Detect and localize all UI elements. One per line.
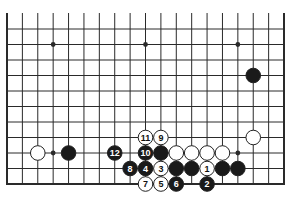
black-stone: [61, 146, 76, 161]
stone-icon: [30, 146, 45, 161]
black-stone: 10: [138, 146, 153, 161]
stone-icon: [184, 161, 199, 176]
star-point-icon: [235, 151, 240, 156]
white-stone: 5: [154, 177, 169, 192]
black-stone: [246, 68, 261, 83]
star-point-icon: [51, 42, 56, 47]
move-number: 1: [205, 164, 210, 174]
black-stone: 12: [107, 146, 122, 161]
star-point-icon: [143, 42, 148, 47]
black-stone: [215, 161, 230, 176]
stone-icon: [246, 68, 261, 83]
stone-icon: [154, 146, 169, 161]
stone-icon: [246, 130, 261, 145]
star-point-icon: [51, 151, 56, 156]
stone-icon: [215, 146, 230, 161]
white-stone: 3: [154, 161, 169, 176]
move-number: 3: [158, 164, 163, 174]
white-stone: [215, 146, 230, 161]
stone-icon: [200, 146, 215, 161]
move-number: 4: [143, 164, 148, 174]
move-number: 6: [174, 179, 179, 189]
white-stone: 9: [154, 130, 169, 145]
black-stone: [154, 146, 169, 161]
stone-icon: [169, 146, 184, 161]
move-number: 7: [143, 179, 148, 189]
move-number: 5: [158, 179, 163, 189]
black-stone: 2: [200, 177, 215, 192]
go-board: 121191084317562: [0, 0, 292, 198]
white-stone: 1: [200, 161, 215, 176]
white-stone: [246, 130, 261, 145]
stone-icon: [61, 146, 76, 161]
black-stone: [169, 161, 184, 176]
white-stone: [169, 146, 184, 161]
black-stone: 6: [169, 177, 184, 192]
white-stone: 11: [138, 130, 153, 145]
white-stone: 7: [138, 177, 153, 192]
star-point-icon: [235, 42, 240, 47]
move-number: 2: [205, 179, 210, 189]
stone-icon: [231, 161, 246, 176]
stone-icon: [215, 161, 230, 176]
black-stone: [184, 161, 199, 176]
black-stone: [231, 161, 246, 176]
move-number: 9: [158, 133, 163, 143]
move-number: 8: [128, 164, 133, 174]
white-stone: [184, 146, 199, 161]
move-number: 11: [141, 133, 151, 143]
move-number: 12: [110, 148, 120, 158]
move-number: 10: [141, 148, 151, 158]
black-stone: 4: [138, 161, 153, 176]
white-stone: [30, 146, 45, 161]
white-stone: [200, 146, 215, 161]
black-stone: 8: [123, 161, 138, 176]
stone-icon: [169, 161, 184, 176]
stone-icon: [184, 146, 199, 161]
